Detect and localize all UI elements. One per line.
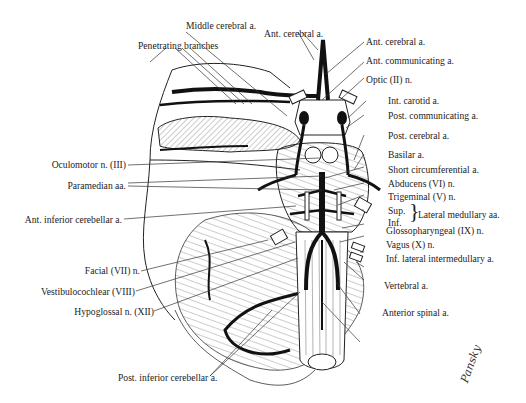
- label-sup: Sup.: [388, 205, 405, 216]
- label-lateral-medullary: Lateral medullary aa.: [418, 209, 500, 220]
- label-middle-cerebral: Middle cerebral a.: [186, 20, 256, 31]
- label-penetrating-branches: Penetrating branches: [138, 40, 218, 51]
- label-inf-lateral-intermedullary: Inf. lateral intermedullary a.: [386, 253, 494, 264]
- label-ant-communicating: Ant. communicating a.: [366, 55, 454, 66]
- label-ant-cerebral: Ant. cerebral a.: [366, 36, 425, 47]
- label-basilar: Basilar a.: [388, 149, 424, 160]
- label-vagus: Vagus (X) n.: [386, 239, 435, 250]
- label-oculomotor: Oculomotor n. (III): [52, 159, 126, 170]
- label-vestibulocochlear: Vestibulocochlear (VIII): [41, 286, 135, 297]
- label-short-circumferential: Short circumferential a.: [388, 164, 479, 175]
- label-post-cerebral: Post. cerebral a.: [388, 130, 449, 141]
- label-optic-nerve: Optic (II) n.: [366, 74, 412, 85]
- label-trigeminal: Trigeminal (V) n.: [388, 191, 456, 202]
- label-post-inferior-cerebellar: Post. inferior cerebellar a.: [118, 372, 217, 383]
- label-int-carotid: Int. carotid a.: [388, 95, 439, 106]
- label-ant-inferior-cerebellar: Ant. inferior cerebellar a.: [25, 214, 122, 225]
- label-abducens: Abducens (VI) n.: [388, 178, 455, 189]
- label-vertebral: Vertebral a.: [384, 280, 428, 291]
- label-ant-cerebral-top: Ant. cerebral a.: [264, 28, 323, 39]
- label-hypoglossal: Hypoglossal n. (XII): [74, 306, 154, 317]
- label-post-communicating: Post. communicating a.: [388, 110, 478, 121]
- label-paramedian: Paramedian aa.: [67, 180, 126, 191]
- label-anterior-spinal: Anterior spinal a.: [382, 307, 449, 318]
- label-facial: Facial (VII) n.: [85, 265, 140, 276]
- label-glossopharyngeal: Glossopharyngeal (IX) n.: [386, 225, 484, 236]
